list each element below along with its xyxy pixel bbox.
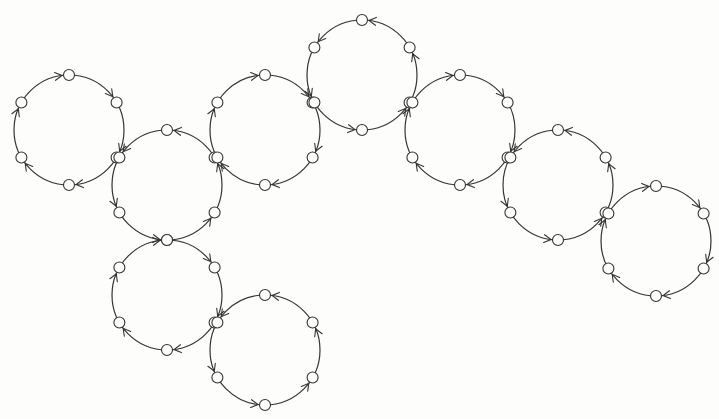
node-c4-4 xyxy=(309,97,320,108)
cycle-c7 xyxy=(601,186,711,296)
node-c6-0 xyxy=(553,125,564,136)
node-c7-1 xyxy=(698,208,709,219)
node-c8-3 xyxy=(162,345,173,356)
node-c9-1 xyxy=(307,317,318,328)
cycle-c3 xyxy=(210,75,320,185)
node-c7-4 xyxy=(603,263,614,274)
node-c9-4 xyxy=(212,372,223,383)
node-c9-0 xyxy=(260,290,271,301)
node-c1-4 xyxy=(16,152,27,163)
node-c2-0 xyxy=(162,125,173,136)
node-c7-2 xyxy=(698,263,709,274)
node-c8-1 xyxy=(209,262,220,273)
cycle-c6 xyxy=(503,130,613,240)
node-c9-2 xyxy=(307,372,318,383)
node-c3-4 xyxy=(212,152,223,163)
node-c3-5 xyxy=(212,97,223,108)
node-c4-3 xyxy=(357,125,368,136)
node-c1-1 xyxy=(111,97,122,108)
node-c5-3 xyxy=(455,180,466,191)
node-c1-3 xyxy=(64,180,75,191)
node-c1-5 xyxy=(16,97,27,108)
node-c7-0 xyxy=(651,181,662,192)
node-c3-3 xyxy=(260,180,271,191)
node-c4-5 xyxy=(309,42,320,53)
cycle-diagram xyxy=(0,0,719,419)
cycle-c2 xyxy=(112,130,222,240)
node-c5-5 xyxy=(407,97,418,108)
node-c6-4 xyxy=(505,207,516,218)
node-c8-0 xyxy=(162,235,173,246)
node-c7-3 xyxy=(651,291,662,302)
node-c8-5 xyxy=(114,262,125,273)
node-c5-4 xyxy=(407,152,418,163)
node-c5-0 xyxy=(455,70,466,81)
node-c4-0 xyxy=(357,15,368,26)
cycle-c9 xyxy=(210,295,320,405)
node-c1-0 xyxy=(64,70,75,81)
node-c9-5 xyxy=(212,317,223,328)
node-c6-5 xyxy=(505,152,516,163)
cycle-c5 xyxy=(405,75,515,185)
node-c2-5 xyxy=(114,152,125,163)
node-c3-2 xyxy=(307,152,318,163)
cycle-c8 xyxy=(112,240,222,350)
cycle-c4 xyxy=(307,20,417,130)
node-c3-0 xyxy=(260,70,271,81)
node-c2-2 xyxy=(209,207,220,218)
node-c4-1 xyxy=(404,42,415,53)
node-c6-1 xyxy=(600,152,611,163)
diagram-canvas xyxy=(0,0,719,419)
node-c7-5 xyxy=(603,208,614,219)
node-c6-3 xyxy=(553,235,564,246)
node-c8-4 xyxy=(114,317,125,328)
node-c9-3 xyxy=(260,400,271,411)
node-c5-1 xyxy=(502,97,513,108)
cycle-c1 xyxy=(14,75,124,185)
node-c2-4 xyxy=(114,207,125,218)
